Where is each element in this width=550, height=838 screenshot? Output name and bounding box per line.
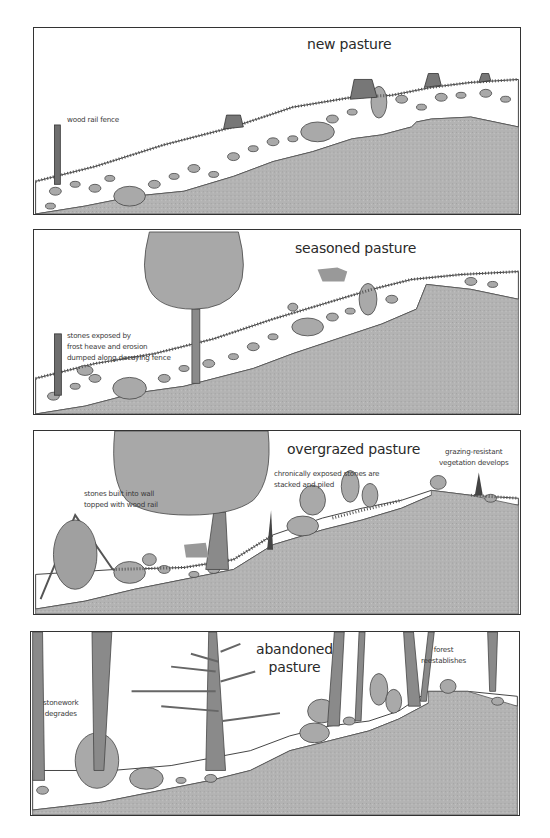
seasoned-pasture-illustration [34, 230, 520, 414]
fence-post [54, 334, 61, 395]
label-forest-reestablishes: forest reestablishes [421, 644, 466, 666]
panel-overgrazed-pasture: overgrazed pasture stones built into wal… [33, 430, 521, 615]
label-stones-exposed: stones exposed by frost heave and erosio… [67, 330, 171, 363]
panel-title: abandoned pasture [256, 640, 333, 676]
panel-seasoned-pasture: seasoned pasture stones exposed by frost… [33, 229, 521, 415]
panel-abandoned-pasture: abandoned pasture stonework degrades for… [30, 631, 520, 816]
label-grazing-resistant-vegetation: grazing-resistant vegetation develops [439, 446, 509, 468]
panel-title: overgrazed pasture [287, 441, 420, 457]
panel-title: new pasture [307, 36, 391, 52]
cow [184, 543, 209, 558]
conifer [475, 473, 483, 496]
panel-new-pasture: new pasture wood rail fence [33, 27, 521, 215]
label-chronically-exposed-stones: chronically exposed stones are stacked a… [274, 468, 379, 490]
label-stones-built-into-wall: stones built into wall topped with wood … [84, 488, 158, 510]
cow [318, 268, 348, 282]
label-wood-rail-fence: wood rail fence [67, 114, 119, 125]
label-stonework-degrades: stonework degrades [43, 697, 79, 719]
conifer [267, 510, 273, 550]
fence-post [54, 125, 60, 184]
panel-title: seasoned pasture [295, 240, 416, 256]
